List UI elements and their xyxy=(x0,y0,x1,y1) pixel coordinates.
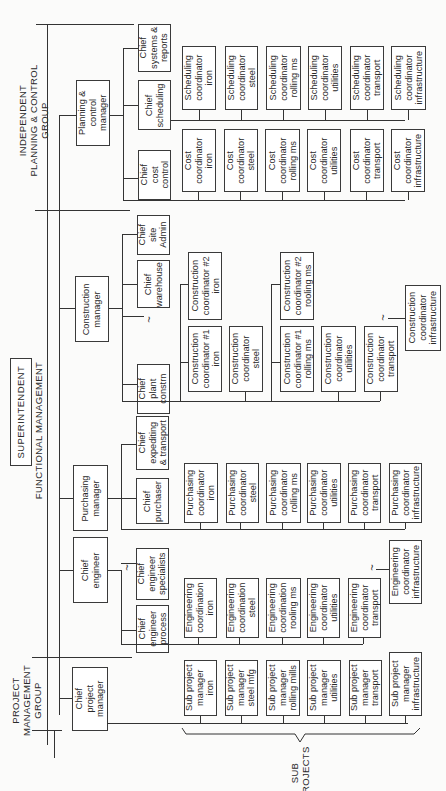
cost-bus xyxy=(123,200,405,201)
connector xyxy=(240,192,241,200)
connector xyxy=(376,569,389,570)
connector xyxy=(123,48,124,178)
connector xyxy=(323,523,324,529)
engineering-coordinator-box: Engineering coordination rooling ms xyxy=(266,578,301,638)
connector xyxy=(380,392,381,401)
connector xyxy=(59,698,72,699)
construction-rolling-branch xyxy=(271,284,272,401)
connector xyxy=(122,234,123,384)
cost-coordinator-box: Cost coordinator steel xyxy=(224,129,258,192)
chief-engineer-box: Chief engineer xyxy=(73,537,108,603)
group-label-subprojects: SUB PROJECTS xyxy=(280,755,320,791)
org-chart: PROJECT MANAGEMENT GROUP FUNCTIONAL MANA… xyxy=(0,0,446,791)
connector xyxy=(363,638,364,644)
connector xyxy=(121,630,122,644)
connector xyxy=(408,110,409,120)
purchasing-coordinator-box: Purchasing coordinator rolling ms xyxy=(266,463,301,523)
purchasing-coordinator-box: Purchasing coordinator utilities xyxy=(307,463,341,523)
connector xyxy=(123,178,138,179)
chief-expediting-box: Chief expediting & transport xyxy=(136,416,169,470)
connector xyxy=(324,716,325,723)
chief-warehouse-box: Chief warehouse xyxy=(137,260,170,308)
group-label-planning: INDEPENDENT PLANNING & CONTROL GROUP xyxy=(8,60,58,180)
engineering-coordinator-box: Engineering coordinator utilities xyxy=(307,578,340,638)
connector xyxy=(59,570,73,571)
scheduling-coordinator-box: Scheduling coordinator rolling ms xyxy=(266,46,301,110)
engineering-coordinator-box: Engineering coordination iron xyxy=(184,578,217,638)
connector xyxy=(271,284,280,285)
chief-systems-reports-box: Chief systems & reports xyxy=(138,24,171,72)
connector xyxy=(324,192,325,200)
connector xyxy=(110,115,124,116)
planning-control-manager-box: Planning & control manager xyxy=(76,80,110,146)
engineering-bus xyxy=(121,644,363,645)
connector xyxy=(325,110,326,120)
chief-cost-control-box: Chief cost control xyxy=(138,150,171,200)
connector xyxy=(198,638,199,644)
construction-coordinator-box: Construction coordinator transport xyxy=(364,326,398,392)
connector xyxy=(123,178,124,200)
divider-tail xyxy=(54,730,55,758)
divider-bottom xyxy=(32,730,62,731)
cost-coordinator-box: Cost coordinator infrastructure xyxy=(391,129,425,192)
connector xyxy=(109,308,123,309)
scheduling-coordinator-box: Scheduling coordinator transport xyxy=(350,46,384,110)
purchasing-manager-box: Purchasing manager xyxy=(73,465,108,531)
connector xyxy=(121,444,122,530)
subproject-horizontal-bus xyxy=(108,723,408,724)
connector xyxy=(199,110,200,120)
sub-project-box: Sub project manager transport xyxy=(349,660,382,716)
chief-engineer-process-box: Chief engineer process xyxy=(136,605,169,653)
connector xyxy=(59,498,73,499)
connector xyxy=(239,638,240,644)
main-spine xyxy=(59,115,60,715)
construction-iron-branch xyxy=(180,284,181,401)
connector xyxy=(405,523,406,529)
connector xyxy=(121,630,136,631)
connector xyxy=(121,444,136,445)
connector xyxy=(366,192,367,200)
chief-site-admin-box: Chief site Admin xyxy=(137,215,170,255)
chief-scheduling-box: Chief scheduling xyxy=(138,80,171,130)
connector xyxy=(338,392,339,401)
connector xyxy=(122,234,137,235)
scheduling-coordinator-box: Scheduling coordinator infrastructure xyxy=(391,46,426,110)
connector xyxy=(121,498,136,499)
chief-project-manager-box: Chief project manager xyxy=(72,667,108,731)
divider-functional-planning xyxy=(35,210,130,211)
sub-project-box: Sub project manager steel mfg xyxy=(225,660,258,716)
connector xyxy=(59,115,76,116)
connector xyxy=(122,284,137,285)
connector xyxy=(271,362,280,363)
connector xyxy=(405,716,406,723)
purchasing-coordinator-box: Purchasing coordinator steel xyxy=(226,463,259,523)
connector xyxy=(282,192,283,200)
sub-project-box: Sub project manager iron xyxy=(184,660,217,716)
connector xyxy=(108,498,122,499)
connector xyxy=(122,384,137,385)
connector xyxy=(245,392,246,401)
scheduling-bus xyxy=(171,120,405,121)
connector xyxy=(240,523,241,529)
construction-coordinator-box: Construction coordinator #2 rooling ms xyxy=(280,252,314,320)
connector xyxy=(121,563,136,564)
scheduling-coordinator-box: Scheduling coordinator steel xyxy=(225,46,258,110)
line-crossing-icon: ~ xyxy=(378,314,389,320)
group-label-functional: FUNCTIONAL MANAGEMENT xyxy=(30,300,48,560)
scheduling-coordinator-box: Scheduling coordinator iron xyxy=(182,46,216,110)
connector xyxy=(282,638,283,644)
connector xyxy=(283,716,284,723)
connector xyxy=(122,316,144,317)
connector xyxy=(198,192,199,200)
construction-coordinator-box: Construction coordinator #1 rolling ms xyxy=(280,326,314,392)
purchasing-coordinator-box: Purchasing coordinator iron xyxy=(184,463,218,523)
subprojects-brace-icon xyxy=(180,726,425,748)
connector xyxy=(200,716,201,723)
connector xyxy=(122,384,123,401)
connector xyxy=(364,523,365,529)
chief-purchaser-box: Chief purchaser xyxy=(136,478,169,524)
purchasing-bus xyxy=(121,529,405,530)
connector xyxy=(123,105,138,106)
connector xyxy=(323,638,324,644)
construction-coordinator-box: Construction coordinator utilities xyxy=(321,326,356,392)
